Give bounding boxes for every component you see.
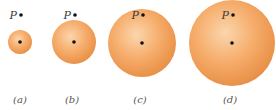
point-p-dot — [19, 13, 23, 17]
sphere-diagram: P(a)P(b)P(c)P(d) — [0, 0, 276, 110]
center-dot — [72, 40, 76, 44]
panel-caption: (a) — [13, 94, 27, 105]
center-dot — [140, 41, 144, 45]
point-p-dot — [73, 13, 77, 17]
panel-c: P(c) — [108, 9, 176, 105]
panel-d: P(d) — [189, 0, 275, 105]
point-p-label: P — [221, 9, 230, 22]
panel-caption: (d) — [223, 94, 237, 105]
center-dot — [230, 41, 234, 45]
point-p-label: P — [131, 9, 140, 22]
point-p-label: P — [63, 9, 72, 22]
center-dot — [18, 40, 22, 44]
panel-a: P(a) — [8, 9, 32, 105]
point-p-label: P — [9, 9, 18, 22]
panel-b: P(b) — [52, 9, 96, 105]
panel-caption: (b) — [65, 94, 79, 105]
point-p-dot — [231, 13, 235, 17]
panel-caption: (c) — [133, 94, 147, 105]
point-p-dot — [141, 13, 145, 17]
